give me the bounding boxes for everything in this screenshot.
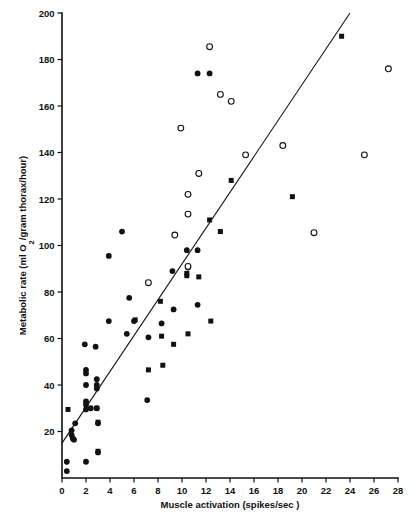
- y-axis-title-text: Metabolic rate (ml O2/gram thorax/hour): [17, 156, 35, 335]
- data-point-filled-square: [94, 406, 99, 411]
- axes: [62, 13, 398, 478]
- data-point-filled-square: [66, 407, 71, 412]
- data-point-filled-circle: [93, 344, 99, 350]
- data-point-filled-circle: [195, 247, 201, 253]
- data-point-filled-square: [158, 299, 163, 304]
- data-point-filled-circle: [88, 405, 94, 411]
- series-filled-circle: [64, 229, 201, 474]
- data-point-filled-square: [184, 273, 189, 278]
- x-tick-label-28: 28: [393, 485, 404, 496]
- y-tick-label-60: 60: [44, 333, 55, 344]
- data-point-open-circle: [218, 91, 224, 97]
- data-point-open-circle: [196, 171, 202, 177]
- data-point-filled-circle: [106, 318, 112, 324]
- y-tick-label-40: 40: [44, 380, 55, 391]
- data-point-filled-square: [96, 449, 101, 454]
- y-tick-label-80: 80: [44, 287, 55, 298]
- data-point-filled-circle: [170, 268, 176, 274]
- data-point-filled-circle: [207, 71, 213, 77]
- data-point-filled-circle: [159, 320, 165, 326]
- x-tick-label-24: 24: [345, 485, 356, 496]
- y-tick-label-140: 140: [39, 147, 55, 158]
- trend-line: [62, 13, 350, 443]
- data-point-open-circle: [207, 44, 213, 50]
- data-point-filled-circle: [195, 71, 201, 77]
- x-tick-label-6: 6: [131, 485, 136, 496]
- series-filled-square: [66, 34, 345, 454]
- data-point-open-circle: [185, 211, 191, 217]
- data-point-open-circle: [178, 125, 184, 131]
- data-point-filled-square: [196, 274, 201, 279]
- x-tick-label-26: 26: [369, 485, 380, 496]
- y-tick-label-100: 100: [39, 240, 55, 251]
- y-tick-label-200: 200: [39, 8, 55, 19]
- data-point-filled-circle: [83, 407, 89, 413]
- data-point-filled-circle: [82, 341, 88, 347]
- data-point-filled-circle: [171, 307, 177, 313]
- x-tick-label-22: 22: [321, 485, 332, 496]
- series-filled-circle-high: [195, 71, 213, 77]
- data-point-open-circle: [311, 230, 317, 236]
- x-axis-title: Muscle activation (spikes/sec ): [161, 499, 300, 510]
- data-points: [64, 34, 391, 474]
- data-point-filled-square: [229, 178, 234, 183]
- data-point-filled-square: [207, 217, 212, 222]
- data-point-open-circle: [228, 98, 234, 104]
- data-point-filled-circle: [144, 397, 150, 403]
- data-point-filled-circle: [72, 420, 78, 426]
- x-tick-label-2: 2: [83, 485, 88, 496]
- x-tick-label-20: 20: [297, 485, 308, 496]
- scatter-plot-figure: 0246810121416182022242628 20406080100120…: [0, 0, 418, 525]
- data-point-filled-circle: [83, 370, 89, 376]
- data-point-filled-square: [160, 363, 165, 368]
- data-point-filled-circle: [83, 459, 89, 465]
- data-point-filled-square: [186, 331, 191, 336]
- x-tick-label-14: 14: [225, 485, 236, 496]
- data-point-open-circle: [362, 152, 368, 158]
- x-tick-label-10: 10: [177, 485, 188, 496]
- data-point-filled-circle: [71, 437, 77, 443]
- data-point-filled-square: [339, 34, 344, 39]
- x-tick-label-0: 0: [59, 485, 64, 496]
- data-point-filled-square: [146, 367, 151, 372]
- data-point-open-circle: [172, 232, 178, 238]
- data-point-filled-circle: [146, 334, 152, 340]
- data-point-filled-circle: [126, 295, 132, 301]
- x-axis-tick-labels: 0246810121416182022242628: [59, 485, 403, 496]
- x-tick-label-18: 18: [273, 485, 284, 496]
- data-point-filled-circle: [94, 376, 100, 382]
- data-point-filled-circle: [106, 253, 112, 259]
- tick-marks: [58, 13, 399, 483]
- y-tick-label-20: 20: [44, 426, 55, 437]
- data-point-filled-circle: [124, 331, 130, 337]
- data-point-open-circle: [185, 264, 191, 270]
- y-tick-label-120: 120: [39, 194, 55, 205]
- y-tick-label-180: 180: [39, 54, 55, 65]
- x-axis-title-text: Muscle activation (spikes/sec ): [161, 499, 300, 510]
- data-point-filled-circle: [64, 459, 70, 465]
- y-tick-label-160: 160: [39, 101, 55, 112]
- y-axis-title: Metabolic rate (ml O2/gram thorax/hour): [17, 156, 35, 335]
- x-tick-label-16: 16: [249, 485, 260, 496]
- x-tick-label-8: 8: [155, 485, 160, 496]
- y-axis-tick-labels: 20406080100120140160180200: [39, 8, 55, 438]
- data-point-filled-circle: [94, 386, 100, 392]
- data-point-open-circle: [243, 152, 249, 158]
- data-point-filled-square: [218, 229, 223, 234]
- chart-canvas: 0246810121416182022242628 20406080100120…: [0, 0, 418, 525]
- data-point-filled-square: [208, 319, 213, 324]
- data-point-open-circle: [146, 280, 152, 286]
- data-point-filled-square: [171, 342, 176, 347]
- x-tick-label-4: 4: [107, 485, 113, 496]
- data-point-open-circle: [386, 66, 392, 72]
- data-point-open-circle: [185, 191, 191, 197]
- data-point-filled-square: [290, 194, 295, 199]
- series-open-circle: [146, 44, 392, 286]
- data-point-filled-square: [96, 420, 101, 425]
- data-point-filled-circle: [83, 382, 89, 388]
- data-point-filled-circle: [184, 247, 190, 253]
- data-point-open-circle: [280, 143, 286, 149]
- data-point-filled-circle: [119, 229, 125, 235]
- data-point-filled-square: [159, 334, 164, 339]
- data-point-filled-circle: [195, 302, 201, 308]
